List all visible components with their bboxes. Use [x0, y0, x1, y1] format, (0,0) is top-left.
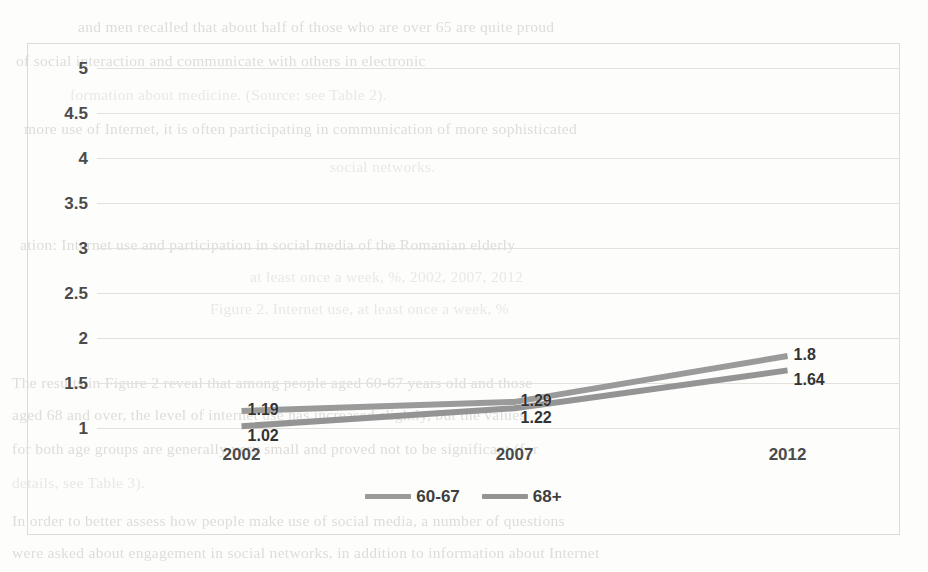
x-axis-tick-label: 2007 [496, 446, 534, 463]
legend-label: 68+ [533, 488, 562, 505]
y-axis-tick-label: 1 [79, 420, 88, 437]
y-axis-tick-label: 5 [79, 60, 88, 77]
legend-item-68+[interactable]: 68+ [482, 488, 562, 505]
chart-container: 11.522.533.544.55 200220072012 60-6768+ … [27, 43, 900, 535]
y-axis-tick-label: 3 [79, 240, 88, 257]
data-point-label: 1.64 [794, 372, 825, 388]
chart-legend: 60-6768+ [28, 488, 899, 505]
gridline [97, 428, 900, 429]
x-axis-tick-label: 2012 [769, 446, 807, 463]
y-axis-tick-label: 2 [79, 330, 88, 347]
data-point-label: 1.8 [794, 347, 816, 363]
legend-swatch-icon [365, 494, 411, 499]
x-axis-tick-label: 2002 [223, 446, 261, 463]
data-point-label: 1.02 [248, 428, 279, 444]
data-point-label: 1.22 [521, 410, 552, 426]
legend-item-60-67[interactable]: 60-67 [365, 488, 459, 505]
data-point-label: 1.29 [521, 393, 552, 409]
ghost-text-line: were asked about engagement in social ne… [12, 544, 600, 562]
ghost-text-line: and men recalled that about half of thos… [44, 18, 554, 36]
y-axis-tick-label: 3.5 [64, 195, 88, 212]
legend-swatch-icon [482, 494, 528, 499]
y-axis: 11.522.533.544.55 [36, 68, 88, 428]
data-point-label: 1.19 [248, 402, 279, 418]
y-axis-tick-label: 1.5 [64, 375, 88, 392]
y-axis-tick-label: 2.5 [64, 285, 88, 302]
y-axis-tick-label: 4 [79, 150, 88, 167]
legend-label: 60-67 [416, 488, 459, 505]
series-line-68+ [242, 370, 788, 426]
y-axis-tick-label: 4.5 [64, 105, 88, 122]
x-axis: 200220072012 [97, 446, 900, 472]
series-lines [97, 68, 900, 428]
